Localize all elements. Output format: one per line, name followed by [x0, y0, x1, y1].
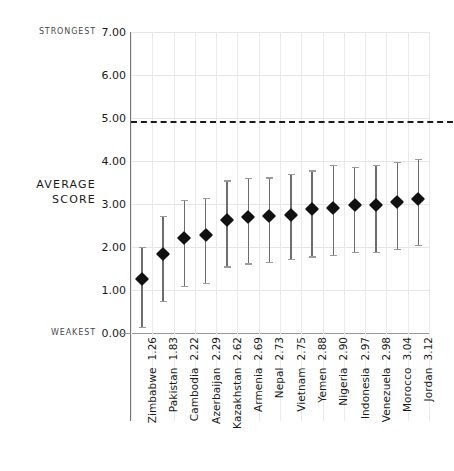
x-axis-label-country: Kazakhstan [231, 367, 243, 429]
x-axis-label-value: 2.98 [380, 337, 392, 360]
error-bar-cap-upper [373, 165, 380, 166]
x-axis-label-yemen: Yemen2.88 [316, 337, 328, 467]
error-bar-cap-upper [203, 198, 210, 199]
x-axis-label-jordan: Jordan3.12 [422, 337, 434, 467]
error-bar-cap-upper [330, 165, 337, 166]
y-axis-tick-2.00: 2.00 [82, 241, 126, 254]
error-bar-cap-upper [181, 200, 188, 201]
y-axis-tick-4.00: 4.00 [82, 155, 126, 168]
data-point-marker [156, 247, 170, 261]
x-axis-label-country: Morocco [401, 367, 413, 412]
error-bar-cap-lower [160, 301, 167, 302]
x-axis-label-value: 3.04 [401, 337, 413, 360]
x-axis-label-country: Nepal [273, 367, 285, 398]
data-point-marker [390, 195, 404, 209]
error-bar-cap-lower [394, 249, 401, 250]
x-axis-label-zimbabwe: Zimbabwe1.26 [146, 337, 158, 467]
data-point-marker [177, 230, 191, 244]
x-axis-label-pakistan: Pakistan1.83 [167, 337, 179, 467]
plot-area [131, 32, 429, 333]
x-axis-label-country: Nigeria [337, 367, 349, 405]
x-axis-label-country: Yemen [316, 367, 328, 402]
error-bar-cap-lower [139, 327, 146, 328]
error-bar-cap-lower [245, 263, 252, 264]
x-axis-label-value: 2.29 [210, 337, 222, 360]
x-axis-label-cambodia: Cambodia2.22 [188, 337, 200, 467]
x-axis-label-value: 2.97 [359, 337, 371, 360]
error-bar-cap-lower [266, 262, 273, 263]
x-axis-label-nigeria: Nigeria2.90 [337, 337, 349, 467]
x-axis-label-kazakhstan: Kazakhstan2.62 [231, 337, 243, 467]
x-axis-label-value: 2.62 [231, 337, 243, 360]
error-bar-cap-lower [288, 259, 295, 260]
x-axis-label-country: Venezuela [380, 367, 392, 422]
x-axis-label-value: 1.83 [167, 337, 179, 360]
x-axis-label-value: 2.22 [188, 337, 200, 360]
x-axis-label-armenia: Armenia2.69 [252, 337, 264, 467]
x-axis-label-value: 1.26 [146, 337, 158, 360]
x-axis-label-value: 2.88 [316, 337, 328, 360]
x-axis-label-azerbaijan: Azerbaijan2.29 [210, 337, 222, 467]
data-point-marker [135, 272, 149, 286]
x-axis-label-country: Pakistan [167, 367, 179, 412]
x-axis-label-value: 2.73 [273, 337, 285, 360]
x-axis-tick-labels: Zimbabwe1.26Pakistan1.83Cambodia2.22Azer… [131, 337, 429, 467]
data-point-marker [284, 208, 298, 222]
y-axis-tick-5.00: 5.00 [82, 112, 126, 125]
x-axis-label-morocco: Morocco3.04 [401, 337, 413, 467]
data-point-marker [262, 209, 276, 223]
y-axis-tick-labels: 0.001.002.003.004.005.006.007.00 [82, 0, 126, 471]
error-bar-cap-upper [245, 178, 252, 179]
x-axis-label-country: Armenia [252, 367, 264, 412]
x-axis-label-value: 2.69 [252, 337, 264, 360]
x-axis-label-country: Indonesia [359, 367, 371, 419]
threshold-reference-line [131, 121, 453, 123]
error-bar-cap-upper [394, 162, 401, 163]
chart-container: STRONGEST AVERAGE SCORE WEAKEST 0.001.00… [0, 0, 454, 471]
error-bar-cap-upper [224, 180, 231, 181]
error-bar-cap-upper [309, 170, 316, 171]
data-point-marker [369, 198, 383, 212]
x-axis-label-country: Cambodia [188, 367, 200, 421]
y-axis-tick-1.00: 1.00 [82, 284, 126, 297]
x-axis-line [119, 333, 429, 334]
error-bar-cap-upper [352, 167, 359, 168]
error-bar-cap-lower [352, 252, 359, 253]
y-axis-tick-6.00: 6.00 [82, 69, 126, 82]
error-bar-cap-lower [309, 256, 316, 257]
data-point-marker [220, 213, 234, 227]
error-bar-cap-upper [415, 159, 422, 160]
error-bar-cap-lower [415, 245, 422, 246]
x-axis-label-venezuela: Venezuela2.98 [380, 337, 392, 467]
x-axis-label-country: Zimbabwe [146, 367, 158, 423]
error-bar-cap-lower [330, 255, 337, 256]
error-bar-cap-upper [160, 216, 167, 217]
plot-inner [131, 32, 429, 333]
data-point-marker [347, 198, 361, 212]
error-bar-cap-lower [203, 283, 210, 284]
x-axis-label-value: 2.90 [337, 337, 349, 360]
x-axis-label-indonesia: Indonesia2.97 [359, 337, 371, 467]
error-bar-cap-lower [181, 286, 188, 287]
y-axis-tick-7.00: 7.00 [82, 26, 126, 39]
error-bar-cap-upper [288, 174, 295, 175]
error-bar [141, 247, 142, 327]
error-bar-cap-lower [224, 266, 231, 267]
data-point-marker [198, 227, 212, 241]
error-bar-cap-lower [373, 252, 380, 253]
x-axis-label-value: 2.75 [295, 337, 307, 360]
x-axis-label-vietnam: Vietnam2.75 [295, 337, 307, 467]
x-axis-label-value: 3.12 [422, 337, 434, 360]
x-axis-label-nepal: Nepal2.73 [273, 337, 285, 467]
data-point-marker [241, 210, 255, 224]
x-axis-label-country: Vietnam [295, 367, 307, 411]
x-axis-label-country: Jordan [422, 367, 434, 401]
error-bar-cap-upper [266, 177, 273, 178]
error-bar-cap-upper [139, 247, 146, 248]
x-axis-label-country: Azerbaijan [210, 367, 222, 424]
y-axis-tick-3.00: 3.00 [82, 198, 126, 211]
